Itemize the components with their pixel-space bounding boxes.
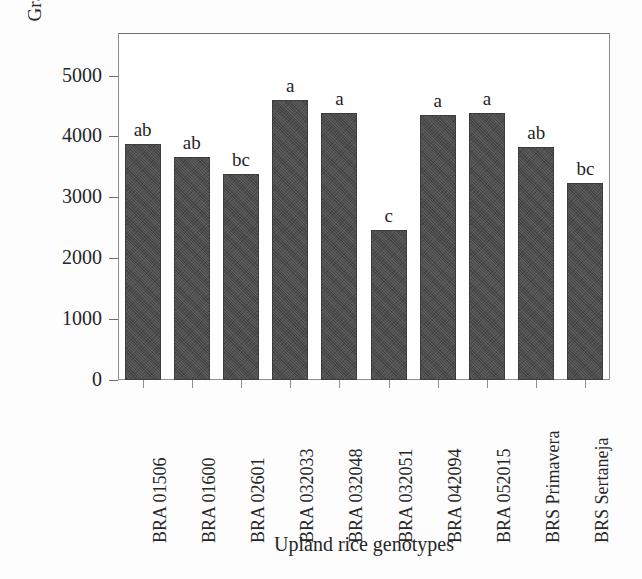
y-axis-tick-label: 2000 bbox=[62, 244, 102, 270]
x-axis-category-label: BRS Sertaneja bbox=[592, 243, 612, 393]
x-axis-title: Upland rice genotypes bbox=[118, 533, 610, 556]
x-axis-tick-mark bbox=[389, 380, 390, 388]
x-axis-category-label: BRA 01600 bbox=[199, 243, 219, 393]
y-axis-tick-mark bbox=[109, 136, 118, 137]
x-axis-category-text: BRS Primavera bbox=[543, 393, 563, 543]
chart-figure: Grain yield (kg ha−1) 500040003000200010… bbox=[0, 0, 642, 579]
y-axis-tick: 2000 bbox=[0, 258, 118, 259]
y-axis-tick-mark bbox=[109, 380, 118, 381]
bar-significance-label: ab bbox=[174, 133, 210, 153]
y-axis-tick-label: 1000 bbox=[62, 305, 102, 331]
y-axis-tick: 1000 bbox=[0, 319, 118, 320]
x-axis-tick-mark bbox=[487, 380, 488, 388]
bar-significance-label: c bbox=[371, 206, 407, 226]
bar-significance-label: bc bbox=[567, 159, 603, 179]
x-axis-category-label: BRA 032033 bbox=[297, 243, 317, 393]
x-axis-category-text: BRA 032051 bbox=[396, 393, 416, 543]
bar-significance-label: bc bbox=[223, 150, 259, 170]
y-axis-tick-label: 3000 bbox=[62, 183, 102, 209]
x-axis-tick-mark bbox=[241, 380, 242, 388]
y-axis-tick: 4000 bbox=[0, 136, 118, 137]
bar-significance-label: a bbox=[321, 89, 357, 109]
bar-significance-label: ab bbox=[518, 123, 554, 143]
x-axis-tick-mark bbox=[290, 380, 291, 388]
x-axis-tick-mark bbox=[143, 380, 144, 388]
y-axis-tick: 0 bbox=[0, 380, 118, 381]
x-axis-tick-mark bbox=[536, 380, 537, 388]
y-axis-tick-mark bbox=[109, 76, 118, 77]
x-axis-category-text: BRS Sertaneja bbox=[592, 393, 612, 543]
bar-significance-label: a bbox=[469, 89, 505, 109]
x-axis-tick-mark bbox=[192, 380, 193, 388]
x-axis-category-text: BRA 042094 bbox=[445, 393, 465, 543]
x-axis-category-label: BRA 01506 bbox=[150, 243, 170, 393]
x-axis-category-label: BRA 032051 bbox=[396, 243, 416, 393]
x-axis-category-label: BRA 02601 bbox=[248, 243, 268, 393]
y-axis-tick-mark bbox=[109, 258, 118, 259]
bar-significance-label: a bbox=[272, 76, 308, 96]
x-axis-category-text: BRA 02601 bbox=[248, 393, 268, 543]
y-axis-tick-label: 4000 bbox=[62, 122, 102, 148]
x-axis-tick-mark bbox=[585, 380, 586, 388]
y-axis-tick-mark bbox=[109, 319, 118, 320]
y-axis-tick-label: 5000 bbox=[62, 62, 102, 88]
y-axis-tick-label: 0 bbox=[92, 366, 102, 392]
x-axis-category-text: BRA 01600 bbox=[199, 393, 219, 543]
y-axis-tick: 5000 bbox=[0, 76, 118, 77]
x-axis-tick-mark bbox=[339, 380, 340, 388]
y-axis-tick-mark bbox=[109, 197, 118, 198]
x-axis-tick-mark bbox=[438, 380, 439, 388]
y-axis-tick: 3000 bbox=[0, 197, 118, 198]
x-axis-category-text: BRA 01506 bbox=[150, 393, 170, 543]
y-axis-title-text: Grain yield (kg ha bbox=[24, 0, 45, 22]
x-axis-category-text: BRA 052015 bbox=[494, 393, 514, 543]
x-axis-category-text: BRA 032048 bbox=[346, 393, 366, 543]
x-axis-category-text: BRA 032033 bbox=[297, 393, 317, 543]
x-axis-category-label: BRA 032048 bbox=[346, 243, 366, 393]
bar-significance-label: a bbox=[420, 91, 456, 111]
x-axis-category-label: BRA 052015 bbox=[494, 243, 514, 393]
x-axis-category-label: BRS Primavera bbox=[543, 243, 563, 393]
x-axis-category-label: BRA 042094 bbox=[445, 243, 465, 393]
bar-significance-label: ab bbox=[125, 120, 161, 140]
